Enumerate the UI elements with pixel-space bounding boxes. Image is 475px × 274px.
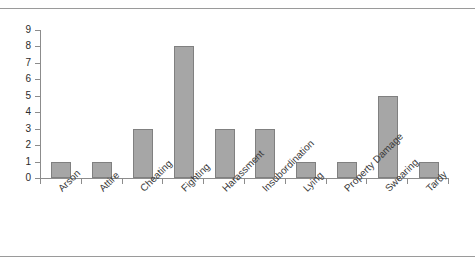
y-axis-tick-label-text: 1 (5, 157, 31, 167)
y-axis-tick-label-text: 4 (5, 107, 31, 117)
y-axis-tick (35, 46, 40, 47)
y-axis-tick-label-text: 6 (5, 74, 31, 84)
y-axis-tick-label: 3 (0, 124, 31, 134)
page-rule-bottom (0, 256, 475, 257)
y-axis-tick-label-text: 3 (5, 124, 31, 134)
y-axis-tick (35, 129, 40, 130)
y-axis-tick (35, 96, 40, 97)
bar[interactable] (215, 129, 235, 178)
y-axis-tick-label: 7 (0, 58, 31, 68)
y-axis-tick-label: 4 (0, 107, 31, 117)
y-axis-tick-label: 1 (0, 157, 31, 167)
bar-series (41, 30, 449, 178)
y-axis-tick-label-text: 7 (5, 58, 31, 68)
x-axis-labels: ArsonAttireCheatingFightingHarassmentIns… (0, 182, 475, 254)
y-axis-tick (35, 30, 40, 31)
y-axis-tick (35, 112, 40, 113)
y-axis-tick (35, 63, 40, 64)
bar-chart: 0123456789 ArsonAttireCheatingFightingHa… (0, 10, 475, 254)
y-axis-tick (35, 162, 40, 163)
y-axis-tick (35, 79, 40, 80)
bar[interactable] (174, 46, 194, 178)
y-axis-tick (35, 145, 40, 146)
y-axis-tick-label: 9 (0, 25, 31, 35)
y-axis-tick-label-text: 8 (5, 41, 31, 51)
y-axis-tick-label: 6 (0, 74, 31, 84)
y-axis-tick-label-text: 2 (5, 140, 31, 150)
y-axis-tick-label: 8 (0, 41, 31, 51)
y-axis-tick-label: 5 (0, 91, 31, 101)
bar[interactable] (133, 129, 153, 178)
y-axis-tick-label: 2 (0, 140, 31, 150)
page-rule-top (0, 8, 475, 9)
chart-page: 0123456789 ArsonAttireCheatingFightingHa… (0, 0, 475, 274)
y-axis-tick-label-text: 9 (5, 25, 31, 35)
y-axis-tick-label-text: 5 (5, 91, 31, 101)
